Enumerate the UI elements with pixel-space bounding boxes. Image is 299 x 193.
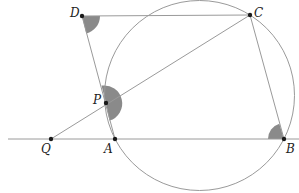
- point-p: [104, 101, 108, 105]
- circle: [105, 1, 295, 191]
- geometry-diagram: D C P Q A B: [0, 0, 299, 193]
- segment-da: [82, 16, 115, 139]
- point-b: [282, 137, 286, 141]
- segment-qc: [51, 15, 250, 139]
- label-c: C: [254, 7, 263, 19]
- label-q: Q: [41, 143, 51, 155]
- label-p: P: [93, 94, 101, 106]
- label-d: D: [70, 7, 80, 19]
- segment-cb: [250, 15, 284, 139]
- point-a: [113, 137, 117, 141]
- segment-dc: [82, 15, 250, 16]
- point-d: [80, 14, 84, 18]
- point-q: [49, 137, 53, 141]
- point-c: [248, 13, 252, 17]
- label-a: A: [104, 143, 113, 155]
- label-b: B: [286, 143, 295, 155]
- diagram-canvas: [0, 0, 299, 193]
